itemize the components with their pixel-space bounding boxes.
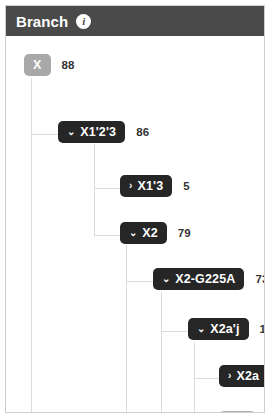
tree-node-x2j: X2j xyxy=(219,411,264,412)
tree-connector-horizontal-x2a xyxy=(194,378,220,379)
tree-connector-vertical-x2aj xyxy=(194,342,195,412)
node-badge-x123[interactable]: ⌄ X1'2'3 xyxy=(58,121,125,143)
node-label-x: X xyxy=(33,58,42,72)
node-badge-x[interactable]: X xyxy=(24,54,51,76)
chevron-down-icon[interactable]: ⌄ xyxy=(67,127,75,137)
node-badge-x2a[interactable]: › X2a xyxy=(219,365,264,387)
tree-node-x2g225a: ⌄ X2-G225A 73 xyxy=(153,268,264,290)
tree-node-x13: › X1'3 5 xyxy=(120,175,190,197)
tree-connector-vertical-x2 xyxy=(126,245,127,412)
node-label-x123: X1'2'3 xyxy=(80,125,116,139)
node-badge-x2j[interactable]: X2j xyxy=(219,411,256,412)
node-badge-x2[interactable]: ⌄ X2 xyxy=(120,222,167,244)
tree-connector-vertical-x123 xyxy=(94,144,95,236)
node-count-x2g225a: 73 xyxy=(255,273,264,285)
tree-connector-horizontal-x2g225a xyxy=(126,281,154,282)
node-count-x: 88 xyxy=(62,59,75,71)
node-count-x2aj: 10 xyxy=(260,323,264,335)
node-count-x13: 5 xyxy=(183,180,190,192)
tree-connector-horizontal-x123 xyxy=(31,134,59,135)
tree-node-x: X 88 xyxy=(24,54,75,76)
node-badge-x2aj[interactable]: ⌄ X2a'j xyxy=(188,318,249,340)
node-count-x2: 79 xyxy=(178,227,191,239)
node-label-x2a: X2a xyxy=(236,369,259,383)
node-label-x13: X1'3 xyxy=(137,179,163,193)
node-label-x2: X2 xyxy=(142,226,158,240)
info-icon[interactable]: i xyxy=(76,14,91,29)
tree-connector-vertical-root xyxy=(31,78,32,412)
node-badge-x2g225a[interactable]: ⌄ X2-G225A xyxy=(153,268,244,290)
tree-node-x2: ⌄ X2 79 xyxy=(120,222,191,244)
chevron-right-icon[interactable]: › xyxy=(228,371,231,381)
chevron-down-icon[interactable]: ⌄ xyxy=(162,274,170,284)
tree-connector-horizontal-x2 xyxy=(94,235,121,236)
tree-node-x2aj: ⌄ X2a'j 10 xyxy=(188,318,264,340)
tree-connector-vertical-x2g225a xyxy=(161,292,162,412)
page-title: Branch xyxy=(16,14,68,29)
branch-tree-screenshot: Branch i X 88 xyxy=(0,0,274,420)
node-count-x123: 86 xyxy=(136,126,149,138)
branch-tree: X 88 ⌄ X1'2'3 86 › X1'3 5 xyxy=(6,36,264,412)
node-label-x2g225a: X2-G225A xyxy=(175,272,235,286)
tree-node-x2a: › X2a 8 xyxy=(219,365,264,387)
node-badge-x13[interactable]: › X1'3 xyxy=(120,175,172,197)
tree-connector-horizontal-x13 xyxy=(94,188,121,189)
chevron-down-icon[interactable]: ⌄ xyxy=(129,228,137,238)
tree-node-x123: ⌄ X1'2'3 86 xyxy=(58,121,149,143)
node-label-x2aj: X2a'j xyxy=(210,322,239,336)
branch-panel: Branch i X 88 xyxy=(5,5,265,413)
chevron-down-icon[interactable]: ⌄ xyxy=(197,324,205,334)
panel-header: Branch i xyxy=(6,6,264,36)
chevron-right-icon[interactable]: › xyxy=(129,181,132,191)
tree-connector-horizontal-x2aj xyxy=(161,331,189,332)
